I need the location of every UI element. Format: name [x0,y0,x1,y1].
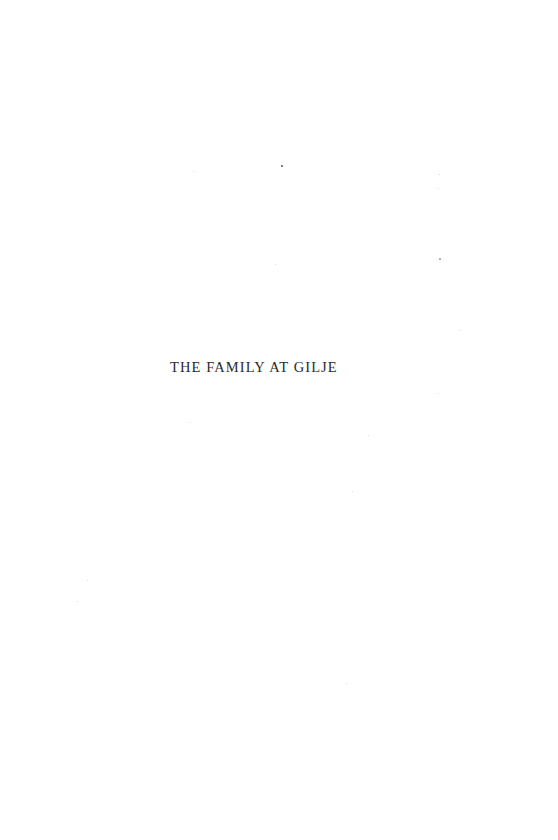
scan-speck [438,188,439,189]
scan-speck [368,435,369,436]
scan-speck [439,258,441,260]
book-page: THE FAMILY AT GILJE [0,0,558,840]
scan-speck [346,683,347,684]
scan-speck [439,174,440,175]
scan-speck [352,491,353,492]
scan-speck [193,171,194,172]
scan-speck [190,422,191,423]
scan-speck [438,393,439,394]
scan-speck [460,330,461,331]
half-title: THE FAMILY AT GILJE [170,359,338,376]
scan-speck [281,165,283,167]
scan-speck [275,264,276,265]
scan-speck [77,601,78,602]
scan-speck [87,580,88,581]
